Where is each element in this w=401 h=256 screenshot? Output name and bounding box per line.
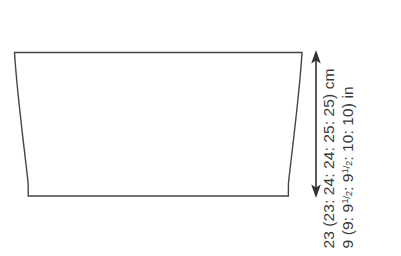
height-measurement-labels: 23 (23: 24: 24: 25: 25) cm 9 (9: 91/2: 9… [322,0,380,256]
height-label-in-prefix: 9 (9: [339,212,356,248]
height-label-in-mid: : [339,182,356,191]
fraction-numerator: 1 [339,198,350,203]
height-label-in: 9 (9: 91/2: 91/2: 10: 10) in [340,86,356,248]
height-inches-whole-a: 9 [339,203,356,212]
height-inches-whole-b: 9 [339,173,356,182]
half-fraction-b: 1/2 [340,160,354,173]
fraction-numerator: 1 [339,168,350,173]
panel-outline [15,53,303,197]
fraction-denominator: 2 [343,160,354,165]
height-label-in-suffix: : 10: 10) in [339,86,356,160]
height-label-cm-text: 23 (23: 24: 24: 25: 25) cm [320,68,337,248]
schematic-canvas: 23 (23: 24: 24: 25: 25) cm 9 (9: 91/2: 9… [0,0,401,256]
height-label-cm: 23 (23: 24: 24: 25: 25) cm [321,68,337,248]
half-fraction-a: 1/2 [340,191,354,204]
